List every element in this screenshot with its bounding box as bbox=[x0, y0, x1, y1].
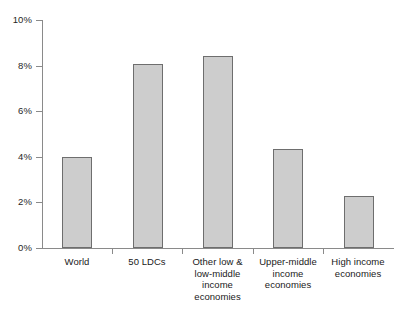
x-axis-tick bbox=[253, 249, 254, 254]
bar-50-ldcs bbox=[133, 64, 163, 248]
x-axis-category-label-line: World bbox=[42, 256, 112, 268]
y-axis-tick bbox=[36, 248, 42, 249]
x-axis-category-label-line: economies bbox=[181, 291, 254, 303]
y-axis-tick-label: 6% bbox=[0, 106, 32, 116]
x-axis-tick bbox=[112, 249, 113, 254]
x-axis-category-label-line: Other low & bbox=[181, 256, 254, 268]
bar-upper-middle-income bbox=[273, 149, 303, 248]
y-axis-tick bbox=[36, 202, 42, 203]
bar-chart-figure: 0% 2% 4% 6% 8% 10% World 50 LDCs Other l… bbox=[0, 0, 398, 316]
x-axis-category-label-line: economies bbox=[322, 268, 394, 280]
y-axis-tick bbox=[36, 157, 42, 158]
x-axis-tick bbox=[182, 249, 183, 254]
x-axis-category-label-line: income bbox=[181, 279, 254, 291]
x-axis-line bbox=[42, 248, 394, 249]
y-axis-tick bbox=[36, 111, 42, 112]
x-axis-category-label: 50 LDCs bbox=[112, 256, 182, 268]
y-axis-tick bbox=[36, 20, 42, 21]
x-axis-tick bbox=[323, 249, 324, 254]
y-axis-tick-label: 10% bbox=[0, 15, 32, 25]
x-axis-category-label-line: income bbox=[253, 268, 323, 280]
y-axis-tick-label: 4% bbox=[0, 152, 32, 162]
x-axis-category-label-line: economies bbox=[253, 279, 323, 291]
y-axis-tick-label: 8% bbox=[0, 61, 32, 71]
bar-high-income bbox=[344, 196, 374, 248]
y-axis-tick bbox=[36, 66, 42, 67]
x-axis-category-label-line: 50 LDCs bbox=[112, 256, 182, 268]
bar-other-low-income bbox=[203, 56, 233, 248]
x-axis-category-label: Upper-middleincomeeconomies bbox=[253, 256, 323, 291]
y-axis-line bbox=[42, 20, 43, 249]
x-axis-category-label-line: Upper-middle bbox=[253, 256, 323, 268]
y-axis-tick-label: 2% bbox=[0, 197, 32, 207]
x-axis-category-label: High incomeeconomies bbox=[322, 256, 394, 279]
x-axis-category-label: Other low &low-middleincomeeconomies bbox=[181, 256, 254, 302]
x-axis-category-label-line: low-middle bbox=[181, 268, 254, 280]
x-axis-category-label-line: High income bbox=[322, 256, 394, 268]
y-axis-tick-label: 0% bbox=[0, 243, 32, 253]
bar-world bbox=[62, 157, 92, 248]
x-axis-category-label: World bbox=[42, 256, 112, 268]
